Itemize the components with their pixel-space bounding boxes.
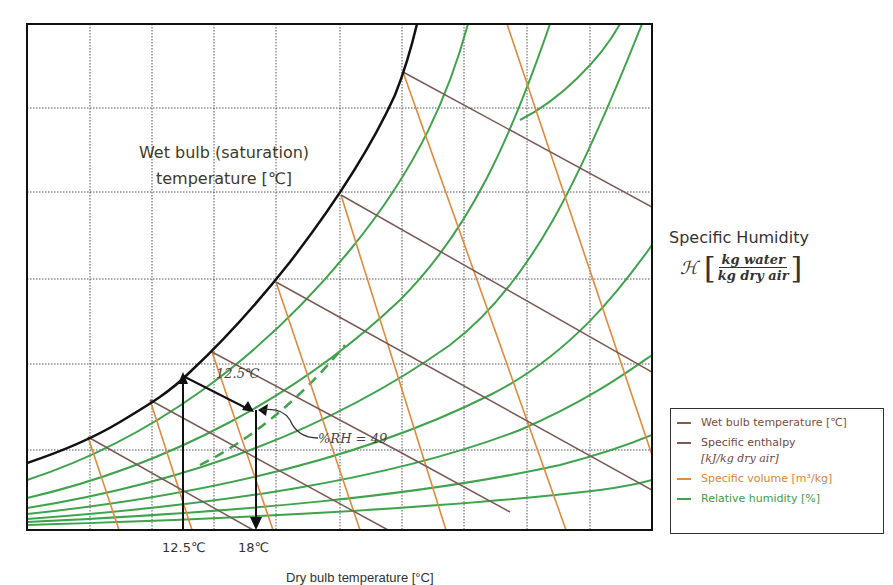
units-denominator: kg dry air: [716, 268, 791, 283]
tick-dry-bulb: 18℃: [238, 540, 269, 555]
legend-label-enthalpy-line1: Specific enthalpy: [701, 436, 796, 449]
annotation-wet-bulb: 12.5℃: [216, 366, 260, 381]
wet-bulb-label-line1: Wet bulb (saturation): [138, 140, 310, 166]
legend-label-relative-humidity: Relative humidity [%]: [701, 491, 820, 507]
legend-swatch-specific-volume: [677, 478, 691, 480]
legend-label-wet-bulb: Wet bulb temperature [℃]: [701, 415, 847, 431]
legend-swatch-enthalpy: [677, 442, 691, 444]
bracket-close: ]: [791, 253, 803, 283]
legend-item-wet-bulb: Wet bulb temperature [℃]: [677, 415, 877, 431]
wet-bulb-label-line2: temperature [℃]: [138, 166, 310, 192]
units-numerator: kg water: [719, 252, 786, 268]
legend-label-enthalpy-line2: [kJ/kg dry air]: [701, 452, 779, 465]
legend-item-relative-humidity: Relative humidity [%]: [677, 491, 877, 507]
wet-bulb-label: Wet bulb (saturation) temperature [℃]: [138, 140, 310, 192]
legend-swatch-wet-bulb: [677, 422, 691, 424]
tick-wet-bulb: 12.5℃: [162, 540, 206, 555]
x-axis-label: Dry bulb temperature [°C]: [286, 570, 434, 585]
legend: Wet bulb temperature [℃] Specific enthal…: [670, 408, 884, 534]
legend-item-specific-volume: Specific volume [m³/kg]: [677, 471, 877, 487]
humidity-symbol: ℋ: [680, 257, 698, 278]
specific-volume-lines: [88, 24, 652, 530]
specific-humidity-formula: ℋ [ kg water kg dry air ]: [680, 252, 802, 283]
saturation-curve: [27, 24, 417, 463]
legend-label-enthalpy: Specific enthalpy [kJ/kg dry air]: [701, 435, 796, 467]
legend-label-specific-volume: Specific volume [m³/kg]: [701, 471, 832, 487]
legend-swatch-relative-humidity: [677, 498, 691, 500]
legend-item-enthalpy: Specific enthalpy [kJ/kg dry air]: [677, 435, 877, 467]
bracket-open: [: [704, 253, 716, 283]
specific-humidity-title: Specific Humidity: [669, 228, 809, 247]
units-fraction: kg water kg dry air: [716, 252, 791, 283]
annotation-rh: %RH = 49: [318, 431, 387, 446]
